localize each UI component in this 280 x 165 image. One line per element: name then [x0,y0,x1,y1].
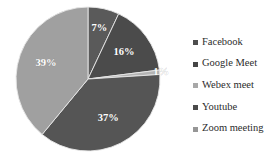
legend-item-label: Google Meet [202,58,257,69]
pie-slice-data-label: 16% [114,46,135,57]
pie-slice-data-label: 7% [91,22,107,33]
legend-item[interactable]: Facebook [193,31,280,53]
legend-item-label: Webex meet [202,80,254,91]
pie-slice-data-label: 1% [153,66,169,77]
legend-color-swatch-icon [193,83,198,88]
pie-slice-data-label: 39% [36,57,57,68]
legend-item[interactable]: Zoom meeting [193,118,280,140]
legend-item-label: Facebook [202,37,243,48]
pie-slice-data-label: 37% [98,112,119,123]
legend-color-swatch-icon [193,62,198,67]
legend-color-swatch-icon [193,127,198,132]
legend-item[interactable]: Google Meet [193,53,280,75]
legend-color-swatch-icon [193,105,198,110]
pie-chart-svg: 7%16%1%37%39% [0,0,180,165]
pie-slice-group [16,7,160,151]
pie-chart-figure: 7%16%1%37%39% FacebookGoogle MeetWebex m… [0,0,280,165]
legend-item-label: Zoom meeting [202,123,264,134]
legend-color-swatch-icon [193,40,198,45]
legend-item-label: Youtube [202,102,237,113]
chart-legend: FacebookGoogle MeetWebex meetYoutubeZoom… [193,31,280,139]
legend-item[interactable]: Webex meet [193,74,280,96]
pie-chart-plot-area: 7%16%1%37%39% [0,0,180,165]
legend-item[interactable]: Youtube [193,96,280,118]
